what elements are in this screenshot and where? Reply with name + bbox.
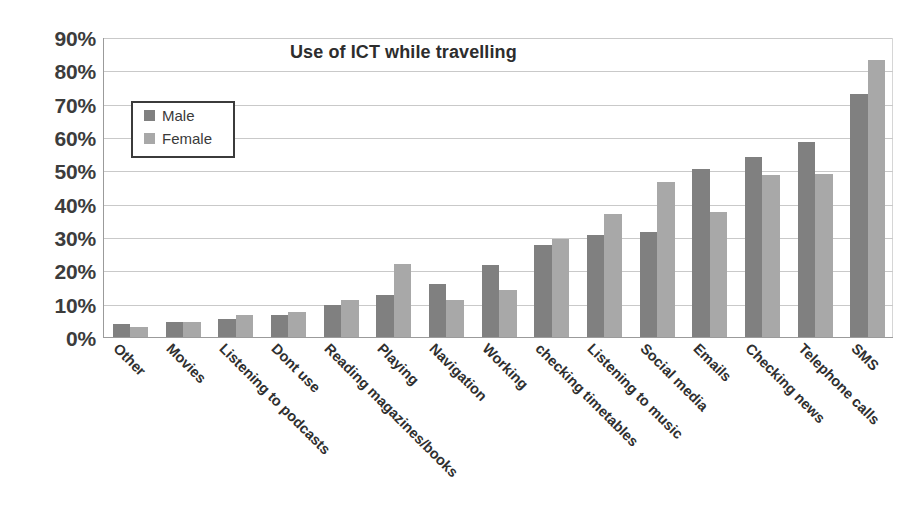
y-tick-label: 70% [55,95,96,116]
bar-male-4 [324,305,342,337]
bar-female-1 [183,322,201,337]
legend-item-male: Male [144,108,195,123]
legend-swatch-male [144,110,155,121]
bar-male-12 [745,157,763,337]
chart-container: 90%80%70%60%50%40%30%20%10%0% Use of ICT… [0,0,920,509]
bar-female-3 [288,312,306,337]
plot-area [103,38,893,338]
bar-male-7 [482,265,500,337]
bar-female-10 [657,182,675,337]
legend-label-male: Male [162,108,195,123]
bar-female-0 [130,327,148,337]
x-axis-label: checking timetables [532,341,640,449]
bar-female-2 [236,315,254,337]
y-tick-label: 50% [55,161,96,182]
x-axis-label: Listening to music [585,341,686,442]
bar-male-10 [640,232,658,337]
x-axis-label: Emails [690,341,733,384]
bar-male-14 [850,94,868,337]
y-tick-label: 90% [55,28,96,49]
bar-male-3 [271,315,289,337]
y-tick-label: 0% [66,328,96,349]
bar-female-7 [499,290,517,337]
bar-male-8 [534,245,552,337]
legend: Male Female [131,101,235,158]
legend-label-female: Female [162,131,212,146]
bar-female-9 [604,214,622,337]
y-tick-label: 80% [55,61,96,82]
bar-female-13 [815,174,833,337]
bar-male-9 [587,235,605,337]
x-axis-label: Dont use [269,341,323,395]
legend-item-female: Female [144,131,212,146]
bar-male-5 [376,295,394,337]
bar-female-5 [394,264,412,337]
bar-male-2 [218,319,236,337]
bars-layer [104,38,893,337]
bar-female-14 [868,60,886,337]
bar-male-0 [113,324,131,337]
bar-male-13 [798,142,816,337]
x-axis-label: Playing [374,341,421,388]
y-tick-label: 30% [55,228,96,249]
x-axis-label: Other [111,341,149,379]
bar-male-6 [429,284,447,337]
bar-female-8 [552,239,570,337]
x-axis-label: Movies [164,341,209,386]
y-tick-label: 20% [55,261,96,282]
x-axis-labels: OtherMoviesListening to podcastsDont use… [103,341,893,501]
y-axis: 90%80%70%60%50%40%30%20%10%0% [40,28,102,348]
x-axis-label: Working [480,341,531,392]
bar-female-12 [762,175,780,337]
bar-female-4 [341,300,359,337]
bar-female-11 [710,212,728,337]
legend-swatch-female [144,133,155,144]
x-axis-label: SMS [848,341,880,373]
bar-female-6 [446,300,464,337]
bar-male-11 [692,169,710,337]
y-tick-label: 10% [55,295,96,316]
y-tick-label: 60% [55,128,96,149]
bar-male-1 [166,322,184,337]
chart-title: Use of ICT while travelling [290,42,517,63]
y-tick-label: 40% [55,195,96,216]
